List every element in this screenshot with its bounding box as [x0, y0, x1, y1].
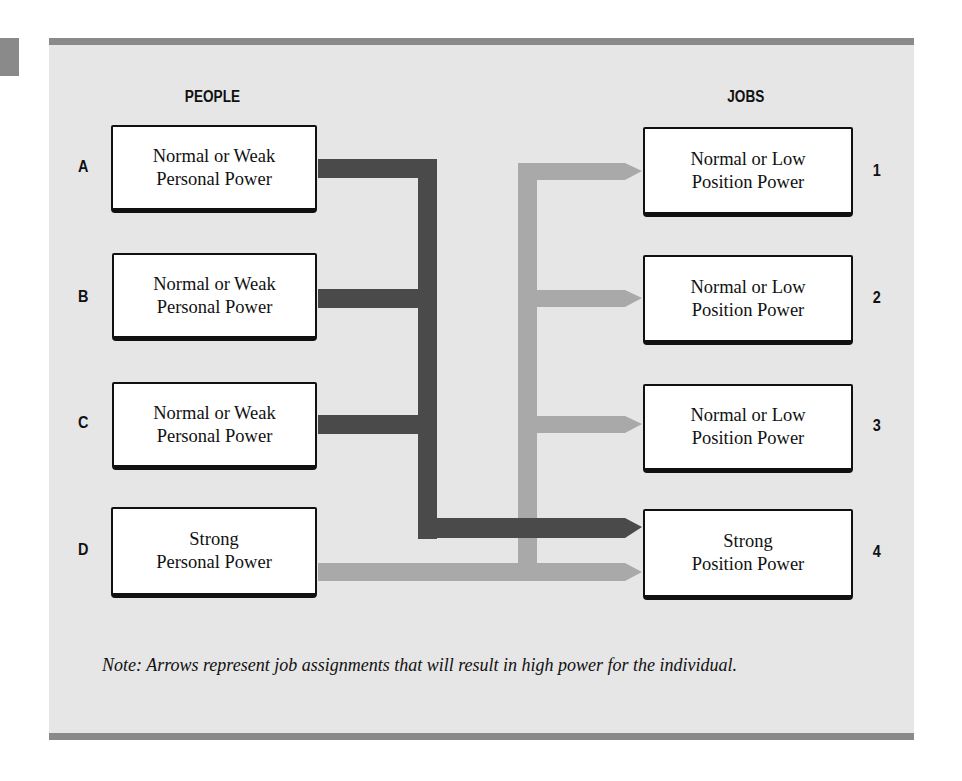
job-label-2: 2 [873, 288, 881, 308]
dark-arrows [318, 159, 642, 539]
line-from-b [318, 289, 428, 308]
job-box-1: Normal or LowPosition Power [643, 127, 853, 217]
job-label-3: 3 [873, 416, 881, 436]
person-label-a: A [78, 157, 88, 177]
person-box-d: StrongPersonal Power [111, 507, 317, 598]
arrow-to-job-2 [537, 290, 642, 307]
people-heading: PEOPLE [185, 88, 240, 106]
person-label-c: C [78, 413, 88, 433]
job-box-3: Normal or LowPosition Power [643, 384, 853, 473]
job-label-4: 4 [873, 542, 881, 562]
person-box-b: Normal or WeakPersonal Power [112, 253, 317, 341]
job-box-2: Normal or LowPosition Power [643, 255, 853, 345]
arrow-to-job-4 [418, 518, 642, 538]
arrow-to-job-1 [518, 163, 642, 180]
jobs-heading: JOBS [727, 88, 764, 106]
job-label-1: 1 [873, 161, 881, 181]
line-from-c [318, 415, 428, 434]
arrow-to-job-3 [537, 416, 642, 433]
arrow-d-to-job-4 [318, 563, 642, 581]
job-box-4: StrongPosition Power [643, 509, 853, 600]
person-label-d: D [78, 540, 88, 560]
person-box-a: Normal or WeakPersonal Power [111, 125, 317, 213]
person-label-b: B [78, 287, 88, 307]
person-box-c: Normal or WeakPersonal Power [112, 382, 317, 470]
footnote: Note: Arrows represent job assignments t… [102, 655, 892, 676]
